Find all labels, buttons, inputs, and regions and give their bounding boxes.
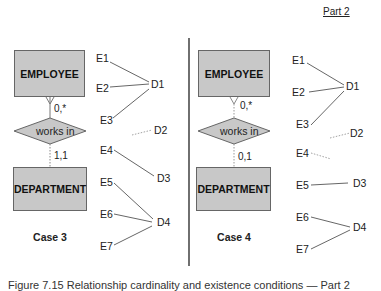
- instance-d4: D4: [157, 217, 170, 228]
- instance-e6: E6: [296, 212, 309, 223]
- cardinality-bottom-case3: 1,1: [54, 150, 68, 161]
- instance-e4: E4: [296, 148, 309, 159]
- cardinality-top-case4: 0,*: [240, 100, 252, 111]
- instance-d3: D3: [157, 173, 170, 184]
- entity-department-case3: DEPARTMENT: [13, 167, 87, 211]
- instance-d2: D2: [154, 125, 167, 136]
- dangling-e4-case4: [311, 153, 331, 159]
- cardinality-top-case3: 0,*: [54, 103, 66, 114]
- crows-foot-icon: [46, 97, 54, 104]
- instance-e2: E2: [292, 87, 305, 98]
- crows-foot-icon: [230, 97, 238, 104]
- instance-e5: E5: [100, 177, 113, 188]
- instance-e7: E7: [100, 241, 113, 252]
- instance-e5: E5: [296, 180, 309, 191]
- entity-employee-case4: EMPLOYEE: [198, 50, 270, 97]
- relationship-label-case4: works in: [220, 126, 259, 137]
- figure-caption: Figure 7.15 Relationship cardinality and…: [8, 279, 350, 291]
- instance-e1: E1: [96, 53, 109, 64]
- case-title-4: Case 4: [217, 231, 251, 243]
- relationship-label-case3: works in: [36, 126, 75, 137]
- cardinality-bottom-case4: 0,1: [238, 151, 252, 162]
- instance-d4: D4: [353, 222, 366, 233]
- entity-department-case4: DEPARTMENT: [196, 167, 271, 211]
- instance-d1: D1: [151, 79, 164, 90]
- instance-lines-case3: [110, 62, 154, 245]
- dangling-d2-case3: [132, 130, 152, 135]
- instance-d2: D2: [350, 128, 363, 139]
- entity-employee-case3: EMPLOYEE: [14, 50, 85, 97]
- instance-e6: E6: [100, 209, 113, 220]
- instance-e4: E4: [100, 145, 113, 156]
- instance-e1: E1: [292, 55, 305, 66]
- case-title-3: Case 3: [33, 231, 67, 243]
- instance-e2: E2: [96, 83, 109, 94]
- dangling-d2-case4: [330, 133, 350, 138]
- instance-lines-case4: [307, 63, 350, 249]
- instance-d1: D1: [346, 81, 359, 92]
- instance-d3: D3: [353, 178, 366, 189]
- instance-e3: E3: [296, 119, 309, 130]
- instance-e3: E3: [100, 115, 113, 126]
- part-label: Part 2: [323, 6, 350, 17]
- instance-e7: E7: [296, 244, 309, 255]
